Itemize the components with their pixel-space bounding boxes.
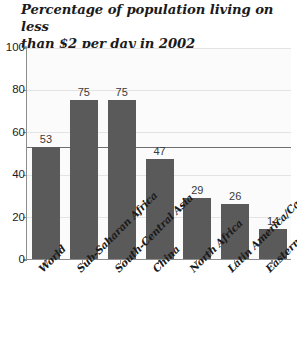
y-tick-label-0: 0 [0, 253, 25, 265]
bar[interactable] [70, 100, 98, 259]
bar-value-label: 47 [136, 145, 184, 157]
bar-group[interactable]: 75 [70, 47, 98, 259]
y-tick-label-80: 80 [0, 83, 25, 95]
bar-group[interactable]: 29 [183, 47, 211, 259]
y-tick-label-60: 60 [0, 126, 25, 138]
bar-group[interactable]: 53 [32, 47, 60, 259]
y-tick-label-100: 100 [0, 41, 25, 53]
bar-chart-figure: Percentage of population living on less … [0, 0, 297, 357]
bar-value-label: 75 [98, 86, 146, 98]
bar[interactable] [32, 147, 60, 259]
chart-title: Percentage of population living on less … [21, 1, 289, 52]
bar-value-label: 26 [211, 190, 259, 202]
y-tick-label-20: 20 [0, 211, 25, 223]
bar-value-label: 53 [22, 133, 70, 145]
y-tick-label-40: 40 [0, 168, 25, 180]
